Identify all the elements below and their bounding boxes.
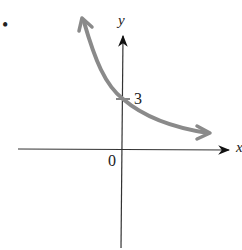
x-axis	[18, 149, 229, 150]
exponential-curve	[84, 22, 208, 133]
origin-label: 0	[108, 152, 116, 170]
graph	[0, 0, 242, 250]
y-axis-label: y	[118, 12, 125, 29]
x-axis-label: x	[236, 139, 242, 156]
tick-label-3: 3	[134, 90, 142, 108]
y-axis	[121, 36, 123, 248]
